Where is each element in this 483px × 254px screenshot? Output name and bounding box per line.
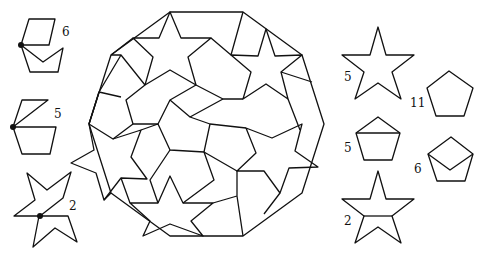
piece-right-star [342, 27, 414, 99]
piece-right-split-label: 2 [344, 214, 352, 228]
piece-left-1 [18, 19, 63, 72]
vertex-dot [18, 42, 24, 48]
decagon-tiling [71, 12, 324, 236]
tiling-diagram: 6 5 2 5 [0, 0, 483, 254]
piece-right-pentagon [427, 71, 473, 116]
piece-right-pentagon-v [428, 137, 473, 181]
piece-right-pentagon-label: 11 [410, 96, 425, 110]
piece-right-star-split [342, 171, 414, 243]
vertex-dot [37, 213, 43, 219]
piece-right-v-label: 6 [414, 162, 422, 176]
piece-right-star-label: 5 [344, 70, 352, 84]
piece-right-pentagon-cap [356, 117, 400, 160]
vertex-dot [10, 124, 16, 130]
piece-right-cap-label: 5 [344, 141, 352, 155]
piece-left-3 [14, 172, 77, 247]
piece-left-2-label: 5 [54, 107, 62, 121]
piece-left-1-label: 6 [62, 25, 70, 39]
piece-left-3-label: 2 [69, 199, 77, 213]
piece-left-2 [10, 100, 56, 154]
